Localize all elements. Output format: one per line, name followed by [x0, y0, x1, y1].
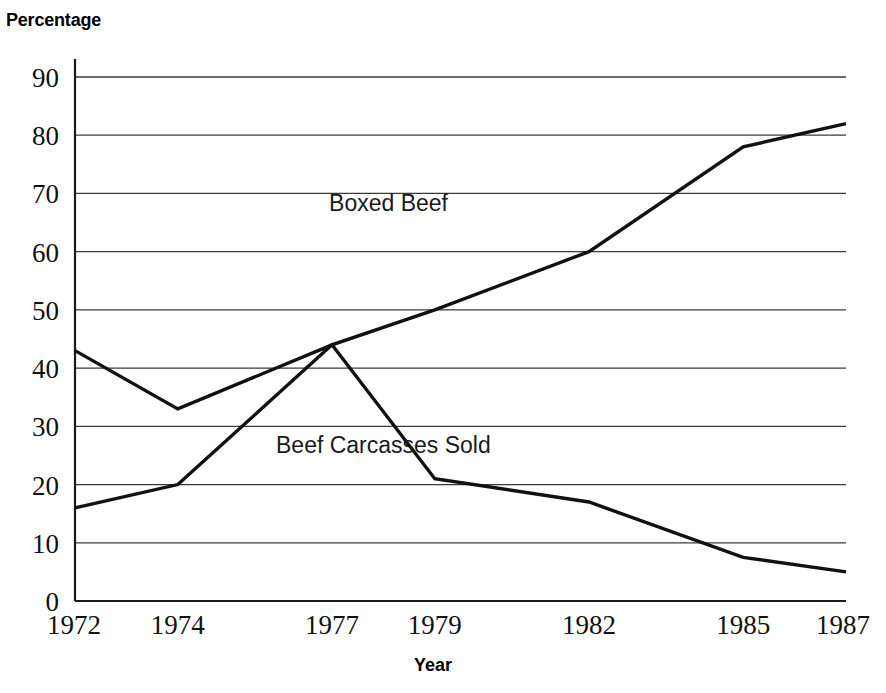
x-tick-label: 1979: [408, 610, 462, 640]
series-label-group: Boxed BeefBeef Carcasses Sold: [276, 190, 491, 458]
x-tick-label: 1987: [816, 610, 870, 640]
x-axis-title-wrap: Year: [0, 655, 886, 676]
x-axis-title: Year: [414, 655, 452, 675]
axis-line-group: [75, 59, 846, 601]
series-label-beef-carcasses-sold: Beef Carcasses Sold: [276, 432, 491, 458]
y-tick-label: 40: [32, 354, 59, 384]
line-chart: Percentage 0102030405060708090 197219741…: [0, 0, 886, 693]
y-tick-label: 60: [32, 238, 59, 268]
x-tick-label-group: 1972197419771979198219851987: [47, 610, 870, 640]
y-tick-label: 80: [32, 121, 59, 151]
y-tick-label: 50: [32, 296, 59, 326]
x-tick-label: 1972: [47, 610, 101, 640]
series-group: [75, 124, 846, 572]
series-line-beef-carcasses-sold: [75, 345, 846, 572]
x-tick-label: 1974: [151, 610, 206, 640]
y-tick-label-group: 0102030405060708090: [32, 63, 59, 617]
x-tick-label: 1977: [305, 610, 359, 640]
y-tick-label: 10: [32, 529, 59, 559]
y-tick-label: 30: [32, 412, 59, 442]
y-tick-label: 90: [32, 63, 59, 93]
x-tick-label: 1985: [716, 610, 770, 640]
series-label-boxed-beef: Boxed Beef: [329, 190, 449, 216]
y-tick-label: 20: [32, 471, 59, 501]
y-tick-label: 70: [32, 179, 59, 209]
plot-canvas: 0102030405060708090 19721974197719791982…: [0, 0, 886, 693]
x-tick-label: 1982: [562, 610, 616, 640]
